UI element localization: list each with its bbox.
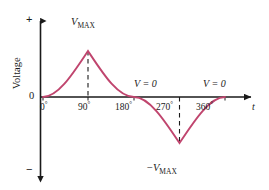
degree-icon: ° <box>45 100 48 108</box>
x-tick-label-90: 90° <box>78 103 90 113</box>
y-axis-down-arrowhead <box>37 176 43 183</box>
y-axis-positive-sign: + <box>26 14 32 25</box>
x-tick-label-180: 180° <box>115 103 132 113</box>
x-axis-variable-label: t <box>252 102 255 112</box>
origin-zero-label: 0 <box>29 91 34 102</box>
x-tick-label-270: 270° <box>156 103 173 113</box>
x-tick-label-0: 0° <box>40 103 48 113</box>
trough-voltage-label: −VMAX <box>147 163 177 174</box>
x-tick-label-270-value: 270 <box>156 102 170 112</box>
degree-icon: ° <box>88 100 91 108</box>
degree-icon: ° <box>129 100 132 108</box>
degree-icon: ° <box>210 100 213 108</box>
zero-crossing-label-180: V = 0 <box>134 79 157 89</box>
x-tick-label-180-value: 180 <box>115 102 129 112</box>
x-tick-label-360: 360° <box>196 103 213 113</box>
degree-icon: ° <box>170 100 173 108</box>
zero-crossing-label-360: V = 0 <box>203 79 226 89</box>
x-tick-label-90-value: 90 <box>78 102 88 112</box>
y-axis-title: Voltage <box>12 49 23 97</box>
y-axis-negative-sign: − <box>26 164 32 175</box>
peak-voltage-label: VMAX <box>71 17 95 28</box>
trough-voltage-subscript: MAX <box>159 167 177 176</box>
plot-area <box>0 0 269 190</box>
x-tick-label-360-value: 360 <box>196 102 210 112</box>
sine-wave-voltage-figure: + − 0 Voltage 0° 90° 180° 270° 360° t V … <box>0 0 269 190</box>
peak-voltage-subscript: MAX <box>77 21 95 30</box>
